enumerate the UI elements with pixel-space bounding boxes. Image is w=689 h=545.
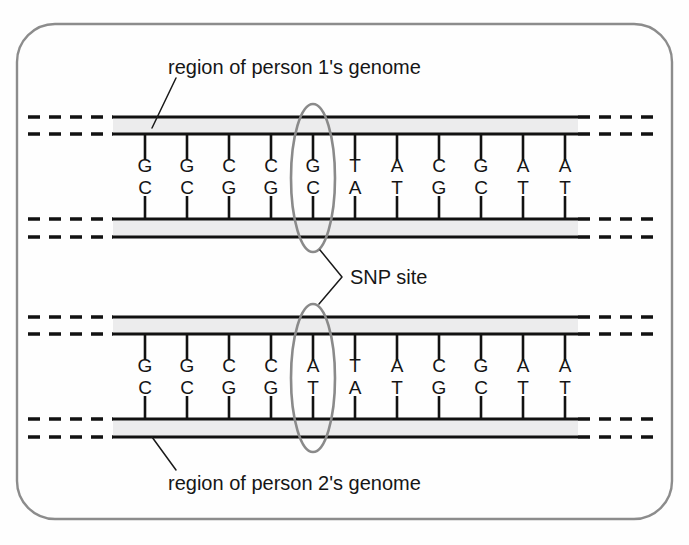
person2-top-base-1: G xyxy=(180,355,195,376)
person2-caption-leader-line xyxy=(152,437,176,470)
person2-bottom-base-2: G xyxy=(222,377,237,398)
person2-bottom-base-0: C xyxy=(138,377,152,398)
person1-bottom-base-9: T xyxy=(517,177,529,198)
person1-bottom-bases: C C G G C A T G C T T xyxy=(138,177,571,198)
person1-top-base-7: C xyxy=(432,155,446,176)
person1-top-base-8: G xyxy=(474,155,489,176)
person1-top-bases: G G C C G T A C G A A xyxy=(138,155,572,176)
person1-bottom-base-0: C xyxy=(138,177,152,198)
snp-site-label: SNP site xyxy=(350,266,427,288)
person1-top-base-4: G xyxy=(306,155,321,176)
person2-bottom-base-8: C xyxy=(474,377,488,398)
person2-top-base-6: A xyxy=(391,355,404,376)
person2-top-base-4: A xyxy=(307,355,320,376)
person2-top-base-7: C xyxy=(432,355,446,376)
person1-top-base-5: T xyxy=(349,155,361,176)
person1-caption-label: region of person 1's genome xyxy=(168,56,421,78)
person2-top-base-9: A xyxy=(517,355,530,376)
person2-top-base-10: A xyxy=(559,355,572,376)
person2-top-base-0: G xyxy=(138,355,153,376)
person1-bottom-base-1: C xyxy=(180,177,194,198)
person1-top-base-6: A xyxy=(391,155,404,176)
person1-bottom-base-3: G xyxy=(264,177,279,198)
person2-bottom-rungs xyxy=(145,396,565,419)
person2-genome-group: G G C C A T A C G A A C C G G T A T G xyxy=(28,304,662,494)
snp-diagram-figure: G G C C G T A C G A A C C G G C A T xyxy=(0,0,689,545)
person1-bottom-backbone-band xyxy=(113,219,578,237)
person1-bottom-rungs xyxy=(145,196,565,219)
person1-top-base-1: G xyxy=(180,155,195,176)
figure-frame-border xyxy=(17,24,672,519)
person2-bottom-base-4: T xyxy=(307,377,319,398)
person2-bottom-base-6: T xyxy=(391,377,403,398)
person1-bottom-base-6: T xyxy=(391,177,403,198)
person2-bottom-base-1: C xyxy=(180,377,194,398)
diagram-canvas: G G C C G T A C G A A C C G G C A T xyxy=(0,0,689,545)
person2-top-backbone-band xyxy=(113,317,578,334)
person1-top-backbone-band xyxy=(113,117,578,134)
person2-bottom-base-7: G xyxy=(432,377,447,398)
snp-site-callout: SNP site xyxy=(319,250,427,304)
person2-top-base-3: C xyxy=(264,355,278,376)
person1-top-base-3: C xyxy=(264,155,278,176)
person1-bottom-base-5: A xyxy=(349,177,362,198)
person2-caption-label: region of person 2's genome xyxy=(168,472,421,494)
person1-top-base-9: A xyxy=(517,155,530,176)
person2-top-base-5: T xyxy=(349,355,361,376)
person2-bottom-base-3: G xyxy=(264,377,279,398)
person2-bottom-backbone-band xyxy=(113,419,578,437)
person1-top-base-0: G xyxy=(138,155,153,176)
person2-bottom-bases: C C G G T A T G C T T xyxy=(138,377,571,398)
person1-bottom-base-4: C xyxy=(306,177,320,198)
person1-bottom-base-7: G xyxy=(432,177,447,198)
person2-bottom-base-5: A xyxy=(349,377,362,398)
person1-bottom-base-8: C xyxy=(474,177,488,198)
person1-genome-group: G G C C G T A C G A A C C G G C A T xyxy=(28,56,662,252)
person2-bottom-base-10: T xyxy=(559,377,571,398)
person1-top-base-2: C xyxy=(222,155,236,176)
person2-bottom-base-9: T xyxy=(517,377,529,398)
person2-top-bases: G G C C A T A C G A A xyxy=(138,355,572,376)
person1-top-base-10: A xyxy=(559,155,572,176)
person2-top-base-8: G xyxy=(474,355,489,376)
person1-bottom-base-10: T xyxy=(559,177,571,198)
snp-callout-leader-lines xyxy=(319,250,342,304)
person1-bottom-base-2: G xyxy=(222,177,237,198)
person2-top-base-2: C xyxy=(222,355,236,376)
